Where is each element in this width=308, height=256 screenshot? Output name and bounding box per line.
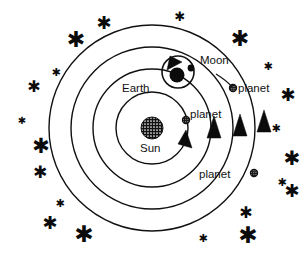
star-icon: ✱ — [280, 84, 295, 105]
sun-disc-icon — [141, 117, 163, 139]
star-icon: ✱ — [96, 12, 111, 33]
star-icon: ✱ — [74, 221, 93, 247]
star-icon: ✱ — [238, 222, 257, 248]
star-icon: ✱ — [198, 232, 207, 245]
solar-system-diagram: ✱ ✱ ✱ ✱ ✱ ✱ ✱ ✱ ✱ ✱ ✱ ✱ ✱ ✱ ✱ ✱ ✱ ✱ ✱ ✱ … — [0, 0, 308, 256]
star-icon: ✱ — [55, 197, 64, 210]
arrow-orbit-1 — [178, 130, 192, 148]
star-icon: ✱ — [27, 77, 40, 96]
sun-body — [141, 117, 163, 139]
label-planet-upper-right: planet — [238, 82, 270, 94]
star-icon: ✱ — [67, 27, 85, 52]
arrow-orbit-4 — [257, 110, 271, 132]
star-icon: ✱ — [33, 162, 47, 182]
star-icon: ✱ — [284, 180, 299, 201]
star-icon: ✱ — [51, 66, 60, 79]
planet-dot-lower-right — [250, 169, 257, 176]
earth-disc-icon — [170, 68, 185, 83]
label-earth: Earth — [122, 82, 150, 94]
star-icon: ✱ — [18, 115, 26, 126]
star-icon: ✱ — [175, 9, 186, 24]
label-sun: Sun — [140, 142, 160, 154]
label-planet-inner: planet — [190, 108, 222, 120]
planet-dot-inner — [182, 116, 189, 123]
label-moon: Moon — [200, 54, 229, 66]
earth-moon-system — [162, 56, 194, 88]
arrow-orbit-3 — [233, 114, 247, 136]
star-icon: ✱ — [42, 212, 57, 233]
diagram-canvas: ✱ ✱ ✱ ✱ ✱ ✱ ✱ ✱ ✱ ✱ ✱ ✱ ✱ ✱ ✱ ✱ ✱ ✱ ✱ ✱ … — [0, 0, 308, 256]
star-icon: ✱ — [271, 122, 280, 135]
moon-disc-icon — [188, 65, 195, 72]
star-icon: ✱ — [231, 26, 249, 51]
star-icon: ✱ — [263, 60, 272, 73]
label-planet-lower-right: planet — [199, 168, 231, 180]
star-icon: ✱ — [239, 203, 252, 222]
planet-group — [182, 84, 257, 176]
star-icon: ✱ — [32, 134, 50, 158]
star-icon: ✱ — [284, 146, 301, 170]
